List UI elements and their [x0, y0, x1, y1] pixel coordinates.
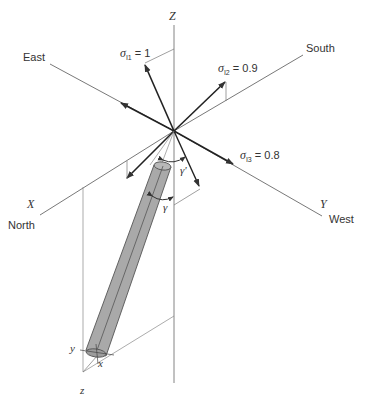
- sigma-value: = 0.8: [252, 149, 280, 161]
- south-label: South: [306, 43, 335, 54]
- east-stress-vector: [121, 103, 174, 131]
- base-plane-line: [83, 356, 97, 372]
- pipe-direction-projection: [174, 189, 200, 205]
- sigma-value: = 0.9: [230, 62, 258, 74]
- gamma-prime-label: γ': [180, 165, 187, 176]
- east-label: East: [23, 52, 45, 63]
- z-axis-label: Z: [169, 10, 176, 22]
- sigma-i2-label: σI2 = 0.9: [218, 62, 258, 76]
- pipe-local-y-label: y: [70, 343, 75, 354]
- pipe-local-z-label: z: [80, 385, 84, 396]
- sigma-i3-label: σI3 = 0.8: [240, 149, 280, 163]
- sigma-i2-vector: [174, 82, 225, 131]
- pipe-local-x-label: x: [98, 358, 103, 369]
- y-axis-label: Y: [320, 198, 327, 210]
- west-label: West: [329, 214, 354, 225]
- ray: [150, 131, 174, 165]
- pipe: [86, 161, 172, 358]
- pipe-direction-vector: [174, 131, 199, 186]
- north-label: North: [8, 220, 35, 231]
- gamma-label: γ: [163, 202, 167, 213]
- sigma-i3-vector: [174, 131, 233, 164]
- sigma-value: = 1: [132, 47, 151, 59]
- sigma-i1-label: σI1 = 1: [120, 47, 150, 61]
- x-axis-label: X: [27, 198, 34, 210]
- sigma-i1-vector: [145, 65, 174, 131]
- stress-orientation-diagram: [0, 0, 367, 404]
